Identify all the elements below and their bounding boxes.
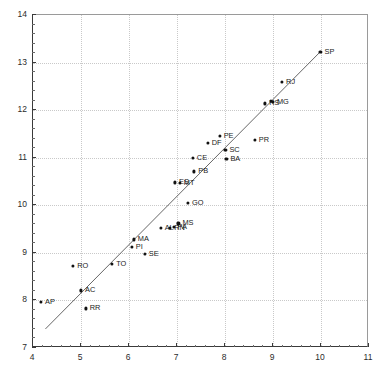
y-axis-minor-tick xyxy=(32,214,35,215)
data-point-label: PB xyxy=(198,168,208,175)
x-axis-minor-tick xyxy=(349,345,350,348)
y-axis-minor-tick xyxy=(32,33,35,34)
x-axis-minor-tick xyxy=(262,345,263,348)
y-axis-tick-label: 11 xyxy=(10,152,27,161)
x-axis-minor-tick xyxy=(61,345,62,348)
data-point-label: AC xyxy=(85,287,95,294)
x-axis-tick-label: 4 xyxy=(30,353,35,362)
x-axis-minor-tick xyxy=(234,345,235,348)
data-point-label: PR xyxy=(259,136,269,143)
x-axis-minor-tick xyxy=(70,345,71,348)
x-axis-minor-tick xyxy=(339,345,340,348)
y-axis-minor-tick xyxy=(32,90,35,91)
y-axis-minor-tick xyxy=(32,119,35,120)
y-axis-tick xyxy=(32,204,36,205)
y-axis-minor-tick xyxy=(32,100,35,101)
y-axis-minor-tick xyxy=(32,242,35,243)
x-axis-tick xyxy=(320,343,321,347)
y-axis-minor-tick xyxy=(32,43,35,44)
y-axis-minor-tick xyxy=(32,337,35,338)
x-axis-tick-label: 10 xyxy=(315,353,324,362)
y-axis-tick-label: 10 xyxy=(10,200,27,209)
x-axis-minor-tick xyxy=(157,345,158,348)
x-axis-minor-tick xyxy=(90,345,91,348)
y-axis-tick xyxy=(32,347,36,348)
y-axis-tick xyxy=(32,62,36,63)
x-axis-minor-tick xyxy=(42,345,43,348)
x-axis-tick-label: 11 xyxy=(364,353,373,362)
data-point-label: MS xyxy=(182,220,193,227)
y-axis-tick-label: 9 xyxy=(10,248,27,257)
y-axis-tick xyxy=(32,157,36,158)
y-axis-tick xyxy=(32,299,36,300)
y-axis-tick-label: 8 xyxy=(10,295,27,304)
x-axis-tick xyxy=(368,343,369,347)
data-point-label: AP xyxy=(45,298,55,305)
y-axis-minor-tick xyxy=(32,185,35,186)
y-axis-minor-tick xyxy=(32,290,35,291)
regression-line xyxy=(0,0,375,380)
y-axis-minor-tick xyxy=(32,147,35,148)
x-axis-minor-tick xyxy=(214,345,215,348)
x-axis-minor-tick xyxy=(109,345,110,348)
y-axis-minor-tick xyxy=(32,71,35,72)
y-axis-minor-tick xyxy=(32,271,35,272)
y-axis-minor-tick xyxy=(32,176,35,177)
y-axis-minor-tick xyxy=(32,138,35,139)
x-axis-tick-label: 8 xyxy=(222,353,227,362)
x-axis-minor-tick xyxy=(99,345,100,348)
x-axis-tick xyxy=(272,343,273,347)
x-axis-tick-label: 9 xyxy=(270,353,275,362)
x-axis-minor-tick xyxy=(147,345,148,348)
x-axis-minor-tick xyxy=(291,345,292,348)
data-point-label: DF xyxy=(212,139,222,146)
data-point-label: MA xyxy=(138,236,149,243)
y-axis-minor-tick xyxy=(32,24,35,25)
data-point-label: RO xyxy=(77,262,88,269)
data-point-label: RR xyxy=(90,305,101,312)
data-point-label: PI xyxy=(136,243,143,250)
y-axis-minor-tick xyxy=(32,195,35,196)
x-axis-tick xyxy=(128,343,129,347)
y-axis-minor-tick xyxy=(32,128,35,129)
data-point-label: SC xyxy=(229,146,239,153)
y-axis-minor-tick xyxy=(32,280,35,281)
x-axis-tick xyxy=(224,343,225,347)
y-axis-minor-tick xyxy=(32,52,35,53)
y-axis-minor-tick xyxy=(32,81,35,82)
x-axis-minor-tick xyxy=(138,345,139,348)
y-axis-minor-tick xyxy=(32,261,35,262)
x-axis-minor-tick xyxy=(301,345,302,348)
data-point-label: MT xyxy=(184,179,195,186)
x-axis-minor-tick xyxy=(358,345,359,348)
data-point-label: SP xyxy=(324,48,334,55)
x-axis-minor-tick xyxy=(195,345,196,348)
x-axis-minor-tick xyxy=(205,345,206,348)
x-axis-minor-tick xyxy=(51,345,52,348)
data-point-label: CE xyxy=(197,154,207,161)
y-axis-tick-label: 7 xyxy=(10,343,27,352)
y-axis-tick-label: 12 xyxy=(10,105,27,114)
y-axis-minor-tick xyxy=(32,223,35,224)
data-point-label: TO xyxy=(116,260,126,267)
y-axis-tick xyxy=(32,14,36,15)
y-axis-minor-tick xyxy=(32,233,35,234)
x-axis-tick-label: 5 xyxy=(78,353,83,362)
data-point-label: RJ xyxy=(286,78,295,85)
y-axis-minor-tick xyxy=(32,309,35,310)
x-axis-minor-tick xyxy=(253,345,254,348)
scatter-chart: 45678910117891011121314APROACRRTOPIMASEA… xyxy=(0,0,375,380)
y-axis-minor-tick xyxy=(32,328,35,329)
x-axis-tick xyxy=(176,343,177,347)
x-axis-minor-tick xyxy=(118,345,119,348)
y-axis-tick-label: 14 xyxy=(10,10,27,19)
y-axis-tick xyxy=(32,252,36,253)
data-point-label: PE xyxy=(224,132,234,139)
x-axis-tick-label: 7 xyxy=(174,353,179,362)
x-axis-minor-tick xyxy=(282,345,283,348)
x-axis-minor-tick xyxy=(166,345,167,348)
y-axis-minor-tick xyxy=(32,318,35,319)
data-point-label: SE xyxy=(149,250,159,257)
y-axis-minor-tick xyxy=(32,166,35,167)
x-axis-tick xyxy=(80,343,81,347)
